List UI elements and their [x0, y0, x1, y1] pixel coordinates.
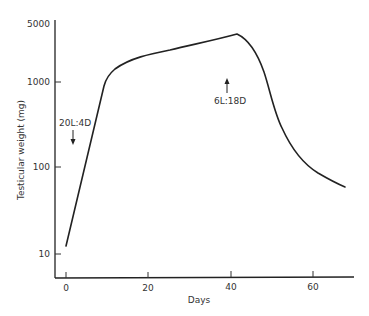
x-tick-label: 0: [63, 283, 69, 293]
arrow-up-icon: [225, 78, 230, 93]
y-tick-label: 10: [39, 249, 51, 259]
y-axis-title: Testicular weight (mg): [16, 100, 26, 201]
y-tick-label: 5000: [27, 19, 50, 29]
arrow-down-icon: [71, 130, 76, 145]
x-tick-label: 60: [307, 282, 319, 292]
y-tick-label: 100: [33, 162, 50, 172]
chart: 5000 1000 100 10 0 20 40 60 Days Testicu…: [0, 0, 369, 316]
data-line: [66, 34, 345, 246]
annotation-6L18D: 6L:18D: [214, 96, 246, 106]
annotation-20L4D: 20L:4D: [59, 118, 91, 128]
y-tick-label: 1000: [27, 77, 50, 87]
x-axis: [55, 277, 354, 278]
x-tick-label: 40: [225, 282, 237, 292]
x-tick-label: 20: [142, 283, 154, 293]
x-axis-title: Days: [188, 295, 211, 305]
y-ticks: [55, 82, 61, 254]
